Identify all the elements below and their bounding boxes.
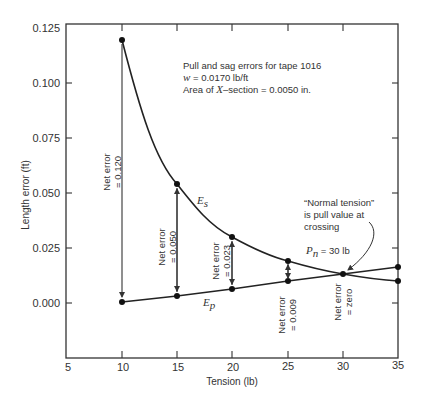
svg-text:= 0.009: = 0.009 — [287, 299, 298, 331]
y-axis-label: Length error (ft) — [20, 160, 31, 229]
x-tick-0: 5 — [65, 361, 71, 373]
y-tick-2: 0.050 — [32, 187, 60, 199]
svg-text:Net error: Net error — [156, 228, 167, 265]
x-axis-label: Tension (lb) — [206, 376, 258, 387]
net-error-label-15: Net error = 0.050 — [156, 228, 178, 265]
title-line-3: Area of X–section = 0.0050 in. — [183, 83, 311, 95]
ep-series-label: Ep — [202, 296, 216, 311]
net-error-label-25: Net error = 0.009 — [276, 296, 298, 333]
crossing-pointer-arrow — [348, 222, 374, 270]
net-error-label-20: Net error = 0.023 — [210, 242, 232, 279]
es-series-label: Es — [196, 194, 208, 209]
x-tick-5: 30 — [337, 360, 349, 372]
y-tick-4: 0.100 — [32, 77, 60, 89]
y-tick-0: 0.000 — [32, 297, 60, 309]
svg-text:Net error: Net error — [276, 296, 287, 333]
svg-text:= 0.120: = 0.120 — [112, 156, 123, 188]
title-line-2: w = 0.0170 lb/ft — [183, 71, 249, 83]
svg-text:Pn = 30 lb: Pn = 30 lb — [305, 244, 350, 259]
svg-text:“Normal tension”: “Normal tension” — [304, 197, 374, 208]
svg-text:= 0.050: = 0.050 — [167, 231, 178, 263]
x-tick-6: 35 — [392, 359, 404, 371]
svg-text:= 0.023: = 0.023 — [221, 245, 232, 277]
chart: 0.000 0.025 0.050 0.075 0.100 0.125 5 10… — [0, 0, 425, 404]
y-tick-labels: 0.000 0.025 0.050 0.075 0.100 0.125 — [32, 22, 60, 309]
net-error-label-10: Net error = 0.120 — [101, 153, 123, 190]
x-tick-2: 15 — [172, 361, 184, 373]
x-tick-3: 20 — [227, 361, 239, 373]
normal-tension-annotation: “Normal tension” is pull value at crossi… — [304, 197, 374, 270]
svg-text:= zero: = zero — [343, 289, 354, 316]
ep-line — [122, 267, 398, 302]
x-tick-4: 25 — [282, 360, 294, 372]
x-tick-1: 10 — [117, 361, 129, 373]
svg-text:Net error: Net error — [210, 242, 221, 279]
svg-text:is pull value at: is pull value at — [304, 209, 365, 220]
net-error-label-30: Net error = zero — [332, 283, 354, 320]
y-tick-5: 0.125 — [32, 22, 60, 34]
svg-text:crossing: crossing — [304, 221, 339, 232]
title-line-1: Pull and sag errors for tape 1016 — [183, 60, 321, 71]
x-tick-labels: 5 10 15 20 25 30 35 — [65, 359, 404, 373]
chart-title-block: Pull and sag errors for tape 1016 w = 0.… — [183, 60, 321, 95]
svg-text:Net error: Net error — [101, 153, 112, 190]
svg-text:Net error: Net error — [332, 283, 343, 320]
y-tick-3: 0.075 — [32, 132, 60, 144]
y-tick-1: 0.025 — [32, 242, 60, 254]
